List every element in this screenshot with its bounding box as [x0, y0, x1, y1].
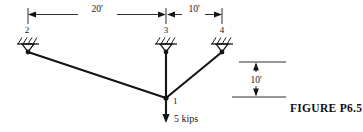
- truss-diagram-canvas: 20' 10' 2 3 4: [0, 0, 363, 132]
- load-arrow-head: [162, 114, 169, 123]
- dim-10ft-label: 10': [188, 4, 200, 14]
- joint-dot-node2: [26, 50, 31, 55]
- vertical-dim-label: 10': [250, 75, 262, 85]
- dimension-20ft: 20': [28, 4, 166, 18]
- load-arrow-5kips: 5 kips: [162, 98, 198, 124]
- member-4-1: [166, 52, 222, 98]
- dim-10ft-arrowhead-right: [214, 12, 222, 18]
- node-label-3: 3: [164, 25, 169, 35]
- support-node4-hatching: [212, 38, 231, 45]
- node-label-2: 2: [25, 25, 30, 35]
- member-2-1: [28, 52, 166, 98]
- node-label-1: 1: [173, 96, 178, 106]
- figure-container: 20' 10' 2 3 4: [0, 0, 363, 132]
- support-node2-hatching: [18, 38, 37, 45]
- truss-members: [28, 52, 222, 98]
- vertical-dim-arrowhead-top: [253, 63, 259, 71]
- dim-10ft-arrowhead-left: [167, 12, 175, 18]
- joint-dot-node4: [220, 50, 225, 55]
- dim-20ft-arrowhead-right: [158, 12, 166, 18]
- figure-caption: FIGURE P6.5: [290, 102, 362, 114]
- vertical-dim-arrowhead-bottom: [253, 89, 259, 97]
- dimension-10ft-horizontal: 10': [167, 4, 222, 18]
- load-magnitude-label: 5 kips: [174, 113, 198, 124]
- dimension-10ft-vertical: 10': [232, 62, 286, 97]
- node-label-4: 4: [220, 25, 225, 35]
- dim-20ft-label: 20': [91, 4, 103, 14]
- support-node3-hatching: [156, 38, 175, 45]
- joint-dot-node3: [164, 50, 169, 55]
- dim-20ft-arrowhead-left: [28, 12, 36, 18]
